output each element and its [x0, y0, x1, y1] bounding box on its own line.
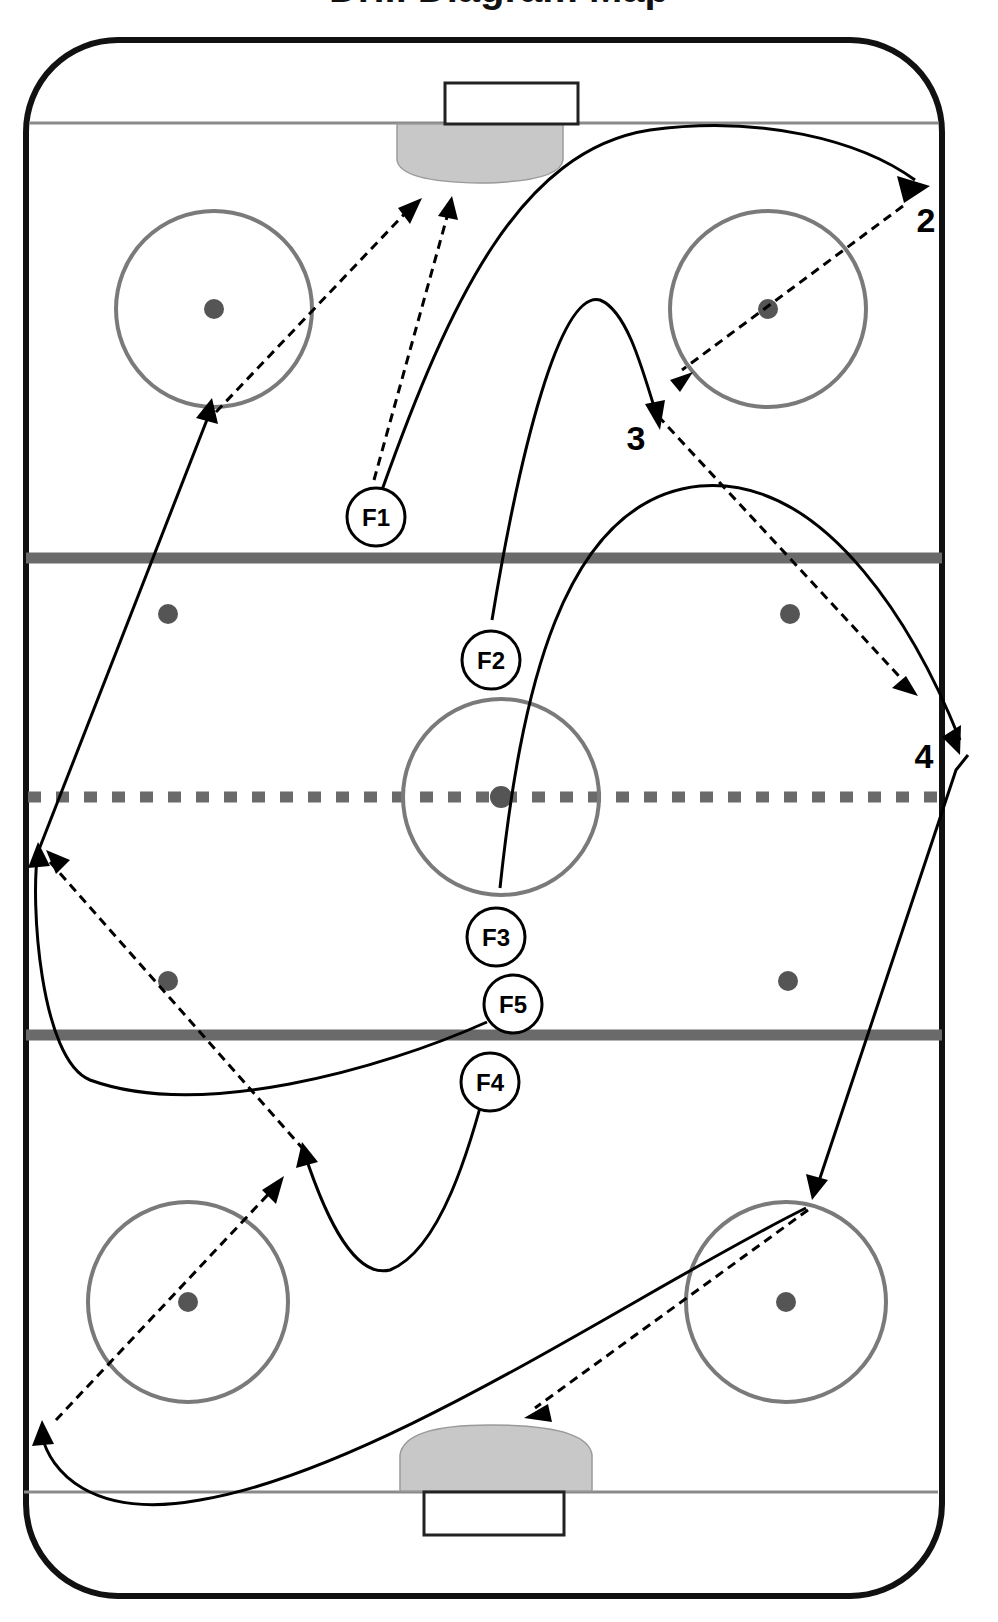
waypoint-2: 2: [917, 201, 936, 239]
goal-crease-bottom: [400, 1425, 592, 1491]
player-f1[interactable]: F1: [347, 488, 405, 546]
player-label: F3: [482, 924, 510, 951]
faceoff-dot: [490, 786, 512, 808]
faceoff-dot: [758, 299, 778, 319]
goal-net-bottom: [424, 1492, 564, 1535]
rink-diagram: F1 F2 F3 F5 F4 2 3 4: [0, 0, 998, 1622]
player-label: F2: [477, 647, 505, 674]
waypoint-4: 4: [915, 737, 934, 775]
player-f2[interactable]: F2: [462, 631, 520, 689]
faceoff-dot: [778, 971, 798, 991]
goal-crease-top: [397, 124, 563, 183]
player-f3[interactable]: F3: [467, 908, 525, 966]
faceoff-dot: [780, 604, 800, 624]
faceoff-dot: [204, 299, 224, 319]
goal-net-top: [445, 83, 578, 124]
player-label: F5: [499, 991, 527, 1018]
waypoint-3: 3: [627, 419, 646, 457]
player-label: F4: [476, 1069, 505, 1096]
faceoff-dot: [776, 1292, 796, 1312]
player-label: F1: [362, 504, 390, 531]
player-f5[interactable]: F5: [484, 975, 542, 1033]
player-f4[interactable]: F4: [461, 1053, 519, 1111]
rink-boards: [26, 40, 942, 1596]
faceoff-dot: [178, 1292, 198, 1312]
faceoff-dot: [158, 604, 178, 624]
